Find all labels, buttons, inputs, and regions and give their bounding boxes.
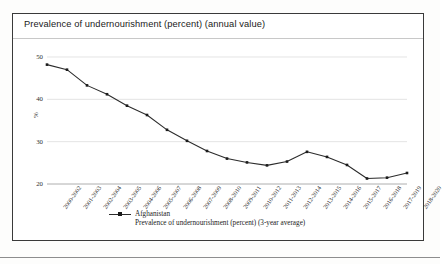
x-tick-label: 2017-2019	[402, 185, 422, 210]
data-point-marker	[66, 68, 69, 71]
data-point-marker	[306, 151, 309, 154]
data-point-marker	[246, 161, 249, 164]
scan-edge-rule	[0, 257, 440, 258]
data-point-marker	[286, 160, 289, 163]
legend-row: Afghanistan	[109, 210, 409, 218]
x-tick-label: 2002-2004	[102, 185, 122, 210]
x-tick-label: 2010-2012	[262, 185, 282, 210]
data-point-marker	[406, 172, 409, 175]
x-tick-label: 2006-2008	[182, 185, 202, 210]
gridlines	[47, 57, 407, 184]
x-tick-label: 2001-2003	[82, 185, 102, 210]
x-tick-label: 2018-2020	[422, 185, 442, 210]
y-tick-label: 30	[36, 138, 43, 145]
data-point-marker	[386, 176, 389, 179]
line-chart-svg	[47, 57, 407, 184]
x-tick-label: 2012-2014	[302, 185, 322, 210]
series-line	[47, 65, 407, 179]
data-point-marker	[206, 150, 209, 153]
x-tick-label: 2009-2011	[242, 185, 262, 210]
x-tick-label: 2000-2002	[62, 185, 82, 210]
y-axis-ticks: 50403020	[27, 57, 43, 184]
x-tick-label: 2015-2017	[362, 185, 382, 210]
x-tick-label: 2014-2016	[342, 185, 362, 210]
chart-title: Prevalence of undernourishment (percent)…	[24, 19, 265, 29]
y-axis-title: %	[32, 112, 40, 118]
x-tick-label: 2005-2007	[162, 185, 182, 210]
data-point-marker	[46, 63, 49, 66]
x-tick-label: 2016-2018	[382, 185, 402, 210]
plot-area	[47, 57, 407, 184]
data-point-marker	[106, 93, 109, 96]
y-tick-label: 40	[36, 95, 43, 102]
data-point-marker	[186, 140, 189, 143]
legend-series-name: Afghanistan	[135, 210, 170, 218]
data-point-marker	[266, 164, 269, 167]
data-point-marker	[366, 177, 369, 180]
y-tick-label: 50	[36, 53, 43, 60]
x-tick-label: 2013-2015	[322, 185, 342, 210]
x-tick-label: 2004-2006	[142, 185, 162, 210]
legend-series-subtitle: Prevalence of undernourishment (percent)…	[135, 219, 409, 227]
data-point-marker	[86, 84, 89, 87]
x-tick-label: 2011-2013	[282, 185, 302, 210]
y-tick-label: 20	[36, 180, 43, 187]
data-point-marker	[346, 164, 349, 167]
x-tick-label: 2003-2005	[122, 185, 142, 210]
title-divider	[13, 38, 423, 39]
data-point-marker	[326, 156, 329, 159]
chart-legend: Afghanistan Prevalence of undernourishme…	[109, 210, 409, 227]
legend-marker-icon	[109, 211, 131, 217]
x-tick-label: 2007-2009	[202, 185, 222, 210]
data-point-marker	[126, 104, 129, 107]
series-afghanistan	[46, 63, 409, 179]
data-point-marker	[226, 157, 229, 160]
chart-card: Prevalence of undernourishment (percent)…	[12, 13, 424, 241]
data-point-marker	[166, 129, 169, 132]
x-tick-label: 2008-2010	[222, 185, 242, 210]
data-point-marker	[146, 114, 149, 117]
